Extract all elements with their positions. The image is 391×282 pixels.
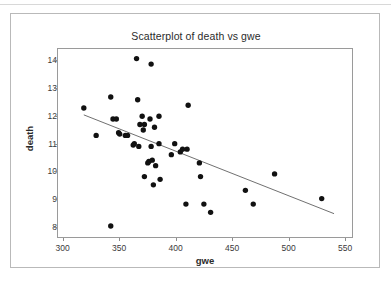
data-point: [134, 56, 139, 61]
data-points: [81, 56, 324, 229]
data-point: [198, 174, 203, 179]
x-tick-mark: [119, 238, 120, 241]
page-top-divider: [0, 4, 391, 5]
data-point: [139, 114, 144, 119]
chart-title: Scatterplot of death vs gwe: [11, 30, 381, 42]
data-point: [141, 127, 146, 132]
data-point: [272, 171, 277, 176]
data-point: [243, 188, 248, 193]
data-point: [147, 116, 152, 121]
data-point: [142, 122, 147, 127]
data-point: [108, 223, 113, 228]
x-tick-label: 500: [269, 243, 309, 253]
x-tick-mark: [345, 238, 346, 241]
plot-area: [57, 48, 353, 238]
data-point: [135, 97, 140, 102]
data-point: [93, 133, 98, 138]
x-tick-label: 400: [156, 243, 196, 253]
data-point: [157, 177, 162, 182]
x-tick-mark: [289, 238, 290, 241]
x-tick-mark: [63, 238, 64, 241]
data-point: [183, 201, 188, 206]
data-point: [251, 201, 256, 206]
data-point: [136, 144, 141, 149]
data-point: [201, 201, 206, 206]
regression-line: [84, 115, 334, 214]
data-point: [150, 157, 155, 162]
data-point: [148, 61, 153, 66]
x-tick-mark: [232, 238, 233, 241]
data-point: [319, 196, 324, 201]
data-point: [185, 103, 190, 108]
figure-card: Scatterplot of death vs gwe death 891011…: [10, 13, 380, 268]
data-point: [197, 160, 202, 165]
data-point: [151, 182, 156, 187]
data-point: [125, 133, 130, 138]
data-point: [114, 116, 119, 121]
data-point: [152, 125, 157, 130]
y-axis-ticks: 891011121314: [25, 48, 57, 238]
data-point: [81, 105, 86, 110]
data-point: [156, 114, 161, 119]
x-tick-label: 450: [212, 243, 252, 253]
data-point: [142, 174, 147, 179]
data-point: [148, 144, 153, 149]
x-tick-label: 550: [325, 243, 365, 253]
scatter-plot-canvas: [58, 49, 352, 237]
data-point: [208, 210, 213, 215]
x-tick-label: 300: [43, 243, 83, 253]
data-point: [169, 152, 174, 157]
x-tick-mark: [176, 238, 177, 241]
data-point: [108, 94, 113, 99]
data-point: [156, 141, 161, 146]
data-point: [172, 141, 177, 146]
data-point: [132, 141, 137, 146]
fit-line: [84, 115, 334, 214]
data-point: [117, 131, 122, 136]
x-axis-title: gwe: [57, 255, 353, 266]
x-tick-label: 350: [99, 243, 139, 253]
data-point: [184, 147, 189, 152]
page-background: Scatterplot of death vs gwe death 891011…: [0, 0, 391, 282]
data-point: [153, 163, 158, 168]
